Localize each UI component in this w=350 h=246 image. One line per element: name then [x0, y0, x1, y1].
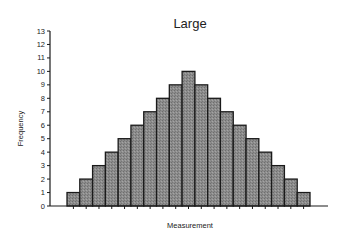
y-tick-label: 13: [37, 27, 45, 36]
y-tick-label: 0: [41, 202, 45, 211]
plot-area: 012345678910111213: [0, 0, 350, 246]
y-tick-label: 10: [37, 67, 45, 76]
bar: [118, 139, 131, 206]
bar: [195, 85, 208, 206]
bar: [220, 112, 233, 206]
y-tick-label: 12: [37, 40, 45, 49]
bar: [297, 193, 310, 206]
bar: [144, 112, 157, 206]
y-tick-label: 3: [41, 161, 45, 170]
bar: [246, 139, 259, 206]
bar: [208, 98, 221, 206]
y-tick-label: 8: [41, 94, 45, 103]
y-tick-label: 6: [41, 121, 45, 130]
bar: [80, 179, 93, 206]
y-tick-label: 9: [41, 80, 45, 89]
y-tick-label: 7: [41, 107, 45, 116]
y-tick-label: 2: [41, 175, 45, 184]
histogram-chart: Large Frequency Measurement 012345678910…: [0, 0, 350, 246]
bars-group: [67, 71, 310, 206]
bar: [67, 193, 80, 206]
y-tick-label: 1: [41, 188, 45, 197]
bar: [131, 125, 144, 206]
bar: [284, 179, 297, 206]
bar: [259, 152, 272, 206]
y-tick-label: 5: [41, 134, 45, 143]
y-tick-label: 11: [37, 53, 45, 62]
bar: [93, 166, 106, 206]
bar: [105, 152, 118, 206]
bar: [157, 98, 170, 206]
bar: [272, 166, 285, 206]
bar: [182, 71, 195, 206]
bar: [169, 85, 182, 206]
y-tick-label: 4: [41, 148, 45, 157]
bar: [233, 125, 246, 206]
